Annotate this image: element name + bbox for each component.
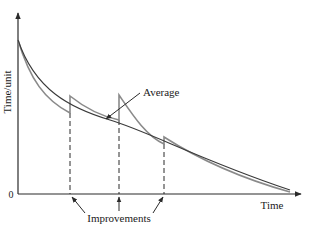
improvement-arrow-3 [153,197,163,213]
sawtooth-curve [18,40,290,192]
improvement-arrow-1 [72,197,85,213]
average-label: Average [143,86,180,98]
x-axis-label: Time [261,199,284,211]
average-pointer-arrow [106,93,140,119]
y-axis-label: Time/unit [1,71,13,114]
average-curve [18,40,290,190]
improvements-label: Improvements [87,212,151,224]
origin-label: 0 [9,189,14,200]
learning-curve-diagram: Time/unit 0 Time Average Improvements [0,0,325,225]
